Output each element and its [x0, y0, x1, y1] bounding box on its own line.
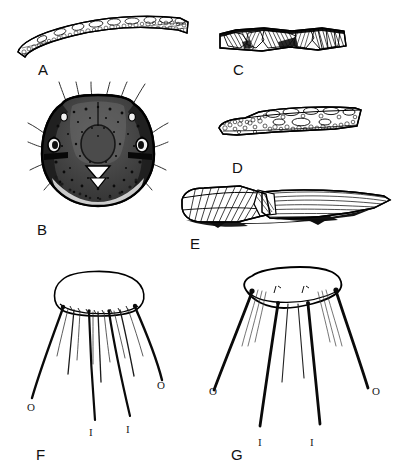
figure-f-inner-seta-label-right: I [126, 424, 130, 435]
figure-d-drawing [215, 98, 365, 148]
figure-f-outer-seta-label-right: O [157, 380, 165, 391]
figure-b-drawing [28, 82, 168, 222]
figure-e-drawing [178, 180, 393, 236]
figure-g-outer-seta-label-left: O [209, 386, 217, 397]
panel-letter-b: B [37, 222, 48, 237]
figure-f-outer-seta-label-left: O [27, 402, 35, 413]
figure-g [200, 258, 390, 448]
panel-letter-f: F [36, 447, 46, 462]
figure-d [215, 98, 365, 148]
figure-c [218, 22, 348, 58]
figure-g-outer-seta-label-right: O [372, 386, 380, 397]
figure-f [10, 258, 190, 448]
figure-e [178, 180, 393, 236]
panel-letter-a: A [38, 62, 49, 77]
figure-b [28, 82, 168, 222]
figure-g-drawing [200, 258, 390, 448]
figure-a-drawing [14, 8, 194, 60]
panel-letter-e: E [190, 236, 201, 251]
panel-letter-c: C [233, 62, 244, 77]
figure-c-drawing [218, 22, 348, 58]
figure-a [14, 8, 194, 60]
figure-g-inner-seta-label-left: I [258, 437, 262, 448]
figure-g-inner-seta-label-right: I [310, 437, 314, 448]
panel-letter-d: D [232, 160, 243, 175]
figure-f-inner-seta-label-left: I [89, 427, 93, 438]
illustration-plate: A [0, 0, 400, 476]
panel-letter-g: G [231, 447, 243, 462]
figure-f-drawing [10, 258, 190, 448]
